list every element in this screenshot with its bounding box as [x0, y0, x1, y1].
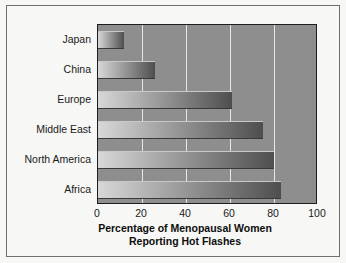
- bar: [98, 181, 281, 199]
- x-axis-title: Percentage of Menopausal Women Reporting…: [47, 222, 323, 248]
- y-axis-label-north-america: North America: [24, 152, 91, 166]
- bar-row: [98, 31, 316, 49]
- bar: [98, 61, 155, 79]
- x-axis-tick-20: 20: [135, 206, 147, 220]
- y-axis-label-europe: Europe: [57, 92, 91, 106]
- y-axis-category-labels: JapanChinaEuropeMiddle EastNorth America…: [13, 24, 95, 204]
- figure-frame-border: JapanChinaEuropeMiddle EastNorth America…: [6, 5, 340, 257]
- y-axis-label-middle-east: Middle East: [36, 122, 91, 136]
- bar-row: [98, 151, 316, 169]
- x-axis-tick-60: 60: [223, 206, 235, 220]
- bar-row: [98, 181, 316, 199]
- x-axis-tick-100: 100: [308, 206, 326, 220]
- x-axis-title-line-2: Reporting Hot Flashes: [47, 235, 323, 248]
- x-axis-tick-80: 80: [267, 206, 279, 220]
- x-axis-tick-labels: 020406080100: [97, 206, 317, 220]
- y-axis-label-china: China: [64, 62, 91, 76]
- y-axis-label-africa: Africa: [64, 182, 91, 196]
- bars-group: [98, 25, 316, 203]
- bar-row: [98, 61, 316, 79]
- bar: [98, 31, 124, 49]
- plot-area: [97, 24, 317, 204]
- x-axis-title-line-1: Percentage of Menopausal Women: [47, 222, 323, 235]
- bar: [98, 151, 274, 169]
- y-axis-label-japan: Japan: [62, 32, 91, 46]
- bar: [98, 121, 263, 139]
- chart-figure: JapanChinaEuropeMiddle EastNorth America…: [0, 0, 346, 263]
- x-axis-tick-40: 40: [179, 206, 191, 220]
- bar-row: [98, 91, 316, 109]
- bar-row: [98, 121, 316, 139]
- x-axis-tick-0: 0: [94, 206, 100, 220]
- bar: [98, 91, 232, 109]
